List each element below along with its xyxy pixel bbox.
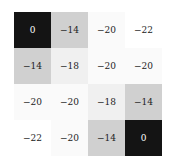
- heatmap-cell: −14: [125, 84, 162, 120]
- heatmap-cell: 0: [14, 12, 51, 48]
- heatmap-cell: −18: [51, 48, 88, 84]
- heatmap-cell: −14: [51, 12, 88, 48]
- heatmap-cell: −20: [125, 48, 162, 84]
- heatmap-cell: −20: [51, 120, 88, 156]
- heatmap-cell: −18: [88, 84, 125, 120]
- heatmap-cell: −20: [14, 84, 51, 120]
- heatmap-grid: 0−14−20−22−14−18−20−20−20−20−18−14−22−20…: [14, 12, 162, 156]
- heatmap-cell: −20: [51, 84, 88, 120]
- heatmap-cell: 0: [125, 120, 162, 156]
- heatmap-cell: −14: [14, 48, 51, 84]
- heatmap-cell: −22: [125, 12, 162, 48]
- heatmap-cell: −20: [88, 12, 125, 48]
- heatmap-cell: −22: [14, 120, 51, 156]
- heatmap-cell: −20: [88, 48, 125, 84]
- heatmap-cell: −14: [88, 120, 125, 156]
